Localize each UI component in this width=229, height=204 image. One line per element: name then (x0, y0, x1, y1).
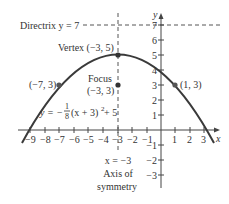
svg-text:7: 7 (152, 20, 157, 31)
x-axis-label: x (215, 133, 221, 144)
svg-text:4: 4 (152, 65, 157, 76)
x-axis-arrow-icon (214, 128, 220, 133)
svg-text:−8: −8 (40, 134, 51, 145)
axis-label-line1: Axis of (103, 168, 133, 179)
svg-text:3: 3 (152, 80, 157, 91)
svg-text:2: 2 (187, 134, 192, 145)
point-left-label: (−7, 3) (29, 79, 56, 91)
axis-equation-label: x = −3 (105, 155, 131, 166)
svg-text:(x + 3): (x + 3) (71, 107, 98, 119)
svg-text:−7: −7 (54, 134, 65, 145)
svg-text:−4: −4 (98, 134, 109, 145)
svg-text:−6: −6 (69, 134, 80, 145)
svg-text:1: 1 (65, 102, 69, 111)
point-left (56, 82, 61, 87)
svg-text:−3: −3 (112, 134, 123, 145)
vertex-point (115, 52, 120, 57)
svg-text:6: 6 (152, 35, 157, 46)
svg-text:3: 3 (201, 134, 206, 145)
svg-text:+ 5: + 5 (104, 107, 117, 118)
svg-text:−2: −2 (127, 134, 138, 145)
y-tick-labels: 7 6 5 4 3 2 1 −1 −2 −3 (146, 20, 157, 181)
axis-label-line2: symmetry (97, 181, 137, 192)
svg-text:5: 5 (152, 50, 157, 61)
focus-point (115, 82, 120, 87)
svg-text:−9: −9 (25, 134, 36, 145)
parabola-diagram: Directrix y = 7 Vertex (−3, 5) Focus (−3… (0, 0, 229, 204)
svg-text:−2: −2 (146, 155, 157, 166)
vertex-label: Vertex (−3, 5) (58, 42, 114, 54)
y-axis-label: y (152, 9, 158, 20)
svg-text:8: 8 (65, 112, 69, 121)
svg-text:1: 1 (152, 110, 157, 121)
directrix-label: Directrix y = 7 (20, 20, 79, 31)
svg-text:−1: −1 (146, 140, 157, 151)
svg-text:1: 1 (172, 134, 177, 145)
svg-text:−5: −5 (83, 134, 94, 145)
x-tick-labels: −9 −8 −7 −6 −5 −4 −3 −2 −1 1 2 3 (25, 134, 206, 145)
focus-title-label: Focus (88, 73, 112, 84)
svg-text:−3: −3 (146, 170, 157, 181)
y-axis-arrow-icon (159, 13, 164, 19)
svg-text:y = −: y = − (39, 107, 63, 118)
point-right-label: (1, 3) (180, 79, 202, 91)
focus-coords-label: (−3, 3) (87, 85, 114, 97)
point-right (172, 82, 177, 87)
equation-label: y = − 1 8 (x + 3) 2 + 5 (39, 102, 117, 121)
svg-text:2: 2 (152, 95, 157, 106)
